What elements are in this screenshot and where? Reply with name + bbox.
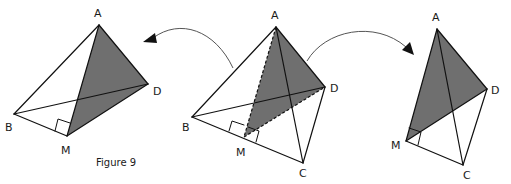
left-label-a: A	[94, 7, 102, 20]
arrow-to-right-arrowhead-icon	[402, 42, 414, 55]
arrow-to-right	[307, 31, 414, 61]
center-label-m: M	[236, 146, 246, 159]
left-edge-bm	[14, 114, 67, 136]
left-shaded-triangle-amd	[67, 25, 148, 136]
right-half-tetrahedron: A M C D	[391, 11, 499, 182]
arrow-to-right-arc	[307, 31, 406, 61]
center-label-a: A	[271, 9, 279, 22]
center-label-c: C	[299, 167, 307, 180]
figure-caption: Figure 9	[96, 157, 136, 168]
center-label-b: B	[182, 121, 190, 134]
center-right-angle-marker-left	[229, 121, 244, 131]
center-shaded-section-amd	[244, 27, 325, 137]
right-shaded-triangle-amd	[406, 29, 487, 141]
left-label-d: D	[153, 85, 161, 98]
arrow-to-left-arrowhead-icon	[143, 33, 157, 43]
right-label-c: C	[463, 169, 471, 182]
right-edge-mc	[406, 141, 463, 165]
left-label-m: M	[61, 144, 71, 157]
left-label-b: B	[5, 121, 13, 134]
left-right-angle-marker	[55, 119, 70, 131]
right-label-d: D	[491, 84, 499, 97]
center-tetrahedron: A B M C D	[182, 9, 338, 180]
arrow-to-left	[143, 28, 233, 68]
left-half-tetrahedron: A B M D	[5, 7, 161, 157]
figure-9-diagram: A B M D A B M C D A	[0, 0, 511, 184]
right-label-m: M	[391, 139, 401, 152]
right-label-a: A	[432, 11, 440, 24]
center-label-d: D	[330, 82, 338, 95]
arrow-to-left-arc	[153, 28, 233, 68]
